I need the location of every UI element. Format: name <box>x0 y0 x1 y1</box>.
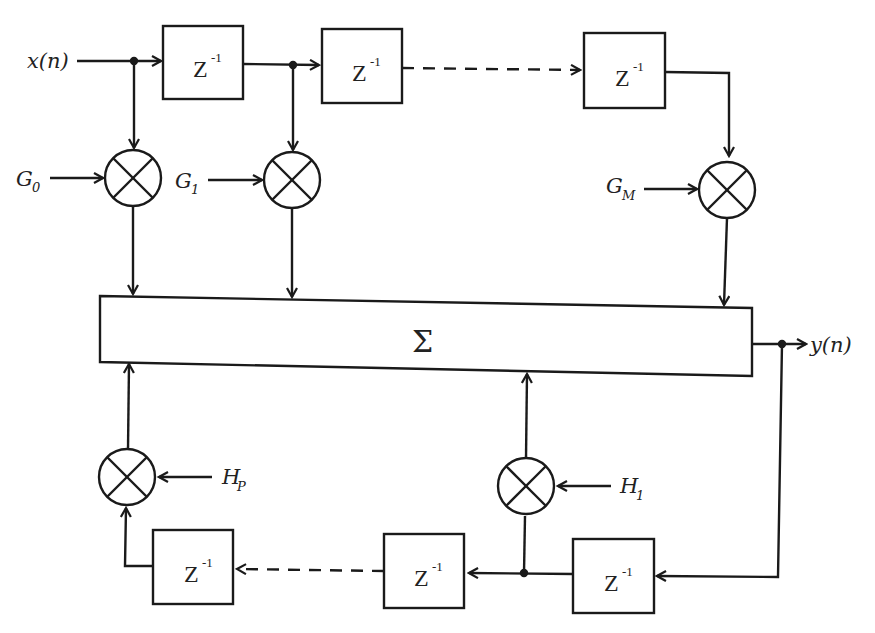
svg-text:-1: -1 <box>370 54 381 69</box>
tap-wire-h1 <box>524 516 525 573</box>
tap-wire-m <box>665 72 729 156</box>
svg-text:-1: -1 <box>202 555 213 570</box>
svg-text:Z: Z <box>193 56 208 82</box>
output-label: y(n) <box>809 333 852 357</box>
gain-label-g1: G 1 <box>175 169 199 197</box>
gain-label-h1: H 1 <box>619 474 644 503</box>
block-diagram: x(n) y(n) Σ Z -1 Z -1 Z -1 Z -1 Z -1 Z -… <box>0 0 875 633</box>
gm-to-sum-wire <box>724 218 727 305</box>
dashed-wire-ff <box>402 68 580 70</box>
svg-text:G: G <box>606 174 623 198</box>
tap-wire-hp <box>125 508 153 566</box>
svg-text:Z: Z <box>352 60 367 86</box>
multiplier-h1 <box>498 458 554 514</box>
dashed-wire-fb <box>237 569 384 571</box>
sum-symbol: Σ <box>412 324 433 359</box>
multiplier-g1 <box>264 152 320 208</box>
svg-text:-1: -1 <box>622 564 633 579</box>
multiplier-g0 <box>105 150 161 206</box>
gain-label-gm: G M <box>606 174 636 203</box>
svg-text:0: 0 <box>32 180 40 195</box>
svg-text:Z: Z <box>184 561 199 587</box>
feedback-wire <box>657 344 782 577</box>
svg-text:M: M <box>621 188 636 203</box>
gain-label-g0: G 0 <box>16 167 40 195</box>
svg-text:1: 1 <box>636 488 644 503</box>
svg-text:Z: Z <box>615 65 630 91</box>
svg-text:1: 1 <box>191 182 199 197</box>
svg-text:-1: -1 <box>432 559 443 574</box>
svg-text:Z: Z <box>414 565 429 591</box>
svg-text:P: P <box>236 479 246 494</box>
input-label: x(n) <box>27 49 69 73</box>
svg-text:-1: -1 <box>633 59 644 74</box>
gain-label-hp: H P <box>221 465 246 494</box>
svg-text:-1: -1 <box>211 50 222 65</box>
svg-text:G: G <box>16 167 33 191</box>
svg-text:Z: Z <box>604 570 619 596</box>
multiplier-hp <box>99 449 155 505</box>
h1-to-sum-wire <box>526 374 527 458</box>
svg-text:G: G <box>175 169 192 193</box>
multiplier-gm <box>699 162 755 218</box>
wire-d1-d2 <box>243 64 319 65</box>
hp-to-sum-wire <box>128 364 129 449</box>
